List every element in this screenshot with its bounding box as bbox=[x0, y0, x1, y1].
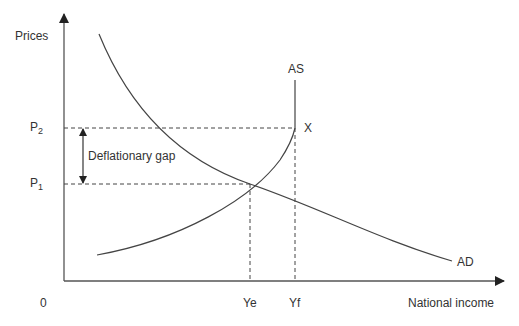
as-label: AS bbox=[288, 63, 304, 75]
p2-main: P bbox=[30, 120, 38, 134]
p2-label: P2 bbox=[30, 121, 43, 136]
point-x-label: X bbox=[304, 122, 312, 134]
ad-curve bbox=[99, 34, 452, 261]
p1-sub: 1 bbox=[38, 182, 43, 192]
ye-label: Ye bbox=[243, 297, 257, 309]
y-axis-label: Prices bbox=[15, 30, 48, 42]
deflationary-gap-label: Deflationary gap bbox=[88, 150, 175, 162]
ad-label: AD bbox=[457, 256, 474, 268]
p1-label: P1 bbox=[30, 177, 43, 192]
p1-main: P bbox=[30, 176, 38, 190]
origin-label: 0 bbox=[40, 297, 47, 309]
as-curve bbox=[97, 80, 295, 255]
yf-label: Yf bbox=[289, 297, 300, 309]
diagram-canvas bbox=[0, 0, 519, 326]
x-axis-label: National income bbox=[408, 297, 494, 309]
p2-sub: 2 bbox=[38, 126, 43, 136]
